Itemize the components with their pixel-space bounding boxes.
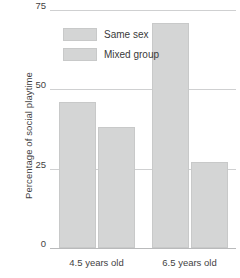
bar-chart: Percentage of social playtime 75 50 25 0… <box>0 0 240 278</box>
legend-swatch-icon-mixed-group <box>63 48 97 61</box>
legend-label-same-sex: Same sex <box>104 30 148 40</box>
y-tick-label-75: 75 <box>35 1 46 11</box>
y-tick-label-25: 25 <box>35 159 46 169</box>
x-axis-label-group-0: 4.5 years old <box>69 257 123 268</box>
bar-mixed-group-4-5[interactable] <box>98 127 135 248</box>
bar-mixed-group-6-5[interactable] <box>191 162 228 248</box>
gridline-50: 50 <box>50 89 236 90</box>
y-tick-label-50: 50 <box>35 80 46 90</box>
legend-label-mixed-group: Mixed group <box>104 50 159 60</box>
gridline-75: 75 <box>50 10 236 11</box>
x-axis-label-group-1: 6.5 years old <box>162 257 216 268</box>
chart-legend: Same sex Mixed group <box>63 28 159 61</box>
legend-item-same-sex: Same sex <box>63 28 159 41</box>
legend-swatch-icon-same-sex <box>63 28 97 41</box>
y-axis-title: Percentage of social playtime <box>23 36 34 236</box>
bar-same-sex-4-5[interactable] <box>59 102 96 248</box>
gridline-0-axis: 0 <box>50 248 236 249</box>
legend-item-mixed-group: Mixed group <box>63 48 159 61</box>
y-tick-label-0: 0 <box>41 239 46 249</box>
